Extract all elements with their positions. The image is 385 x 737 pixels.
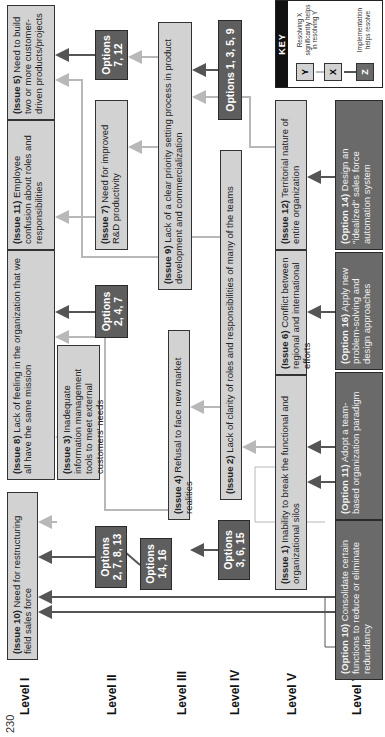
option-14-box: (Option 14) Design an "idealized" sales … xyxy=(335,100,383,250)
issue-2-box: (Issue 2) Lack of clarity of roles and r… xyxy=(220,150,242,500)
option-tag: (Option 10) xyxy=(339,624,350,674)
issue-12-box: (Issue 12) Territorial nature of entire … xyxy=(275,100,307,250)
option-tag: (Option 16) xyxy=(339,314,350,364)
issue-tag: (Issue 12) xyxy=(279,200,290,244)
options-numbers: 14, 16 xyxy=(156,549,168,578)
options-2-4-7: Options2, 4, 7 xyxy=(95,285,128,338)
page-number: 230 xyxy=(4,715,16,733)
issue-9-box: (Issue 9) Lack of a clear priority setti… xyxy=(158,22,192,290)
issue-1-box: (Issue 1) Inability to break the functio… xyxy=(275,375,307,590)
issue-tag: (Issue 9) xyxy=(162,245,173,284)
option-tag: (Option 11) xyxy=(339,464,350,514)
options-numbers: 7, 12 xyxy=(112,43,124,66)
options-numbers: 2, 4, 7 xyxy=(112,297,124,326)
option-11-box: (Option 11) Adopt a team-based organizat… xyxy=(335,372,383,520)
issue-10-box: (Issue 10) Need for restructuring field … xyxy=(7,492,38,660)
options-14-16: Options14, 16 xyxy=(140,538,172,590)
option-16-box: (Option 16) Apply new problem-solving an… xyxy=(335,252,383,370)
issue-tag: (Issue 4) xyxy=(172,475,183,514)
issue-3-box: (Issue 3) Inadequate information managem… xyxy=(57,345,100,480)
level-2-label: Level II xyxy=(105,674,119,715)
options-2-7-8-13: Options2, 7, 8, 13 xyxy=(95,526,127,588)
options-3-6-15: Options3, 6, 15 xyxy=(218,520,250,580)
issue-4-box: (Issue 4) Refusal to face new market rea… xyxy=(168,330,190,520)
issue-tag: (Issue 5) xyxy=(11,75,22,114)
issue-6-box: (Issue 6) Conflict between regional and … xyxy=(275,250,307,375)
level-1-label: Level I xyxy=(18,678,32,715)
options-numbers: 3, 6, 15 xyxy=(234,532,246,567)
level-4-label: Level IV xyxy=(228,670,242,715)
issue-5-box: (Issue 5) Need to build two or more cust… xyxy=(7,5,55,120)
key-resolve-text: Resolving X significantly helps in resol… xyxy=(296,3,319,57)
level-3-label: Level III xyxy=(175,671,189,715)
options-7-12: Options7, 12 xyxy=(95,30,128,80)
options-title: Options 1, 3, 5, 9 xyxy=(224,28,236,111)
issue-tag: (Issue 11) xyxy=(11,201,22,244)
issue-7-box: (Issue 7) Need for improved R&D producti… xyxy=(95,100,128,250)
options-title: Options xyxy=(222,530,234,570)
options-title: Options xyxy=(100,292,112,332)
issue-text: Lack of clarity of roles and responsibil… xyxy=(224,186,235,455)
options-numbers: 2, 7, 8, 13 xyxy=(111,534,123,581)
issue-11-box: (Issue 11) Employee confusion about role… xyxy=(7,120,55,250)
options-1-3-5-9: Options 1, 3, 5, 9 xyxy=(218,20,242,120)
options-title: Options xyxy=(99,537,111,577)
key-impl-text: Implementation helps resolve xyxy=(356,3,371,57)
issue-tag: (Issue 8) xyxy=(11,435,22,474)
issue-tag: (Issue 6) xyxy=(279,330,290,369)
options-title: Options xyxy=(100,35,112,75)
legend-key: KEY Y X Z Resolving X significantly help… xyxy=(275,0,383,88)
option-tag: (Option 14) xyxy=(339,194,350,244)
options-title: Options xyxy=(144,544,156,584)
issue-8-box: (Issue 8) Lack of feeling in the organiz… xyxy=(7,250,55,480)
issue-tag: (Issue 10) xyxy=(11,610,22,654)
issue-tag: (Issue 2) xyxy=(224,455,235,494)
issue-tag: (Issue 3) xyxy=(61,435,72,474)
issue-option-diagram: Level I Level II Level III Level IV Leve… xyxy=(0,0,385,737)
level-5-label: Level V xyxy=(285,673,299,715)
option-10-box: (Option 10) Consolidate certain function… xyxy=(335,520,383,680)
issue-tag: (Issue 7) xyxy=(99,205,110,244)
issue-tag: (Issue 1) xyxy=(279,545,290,584)
